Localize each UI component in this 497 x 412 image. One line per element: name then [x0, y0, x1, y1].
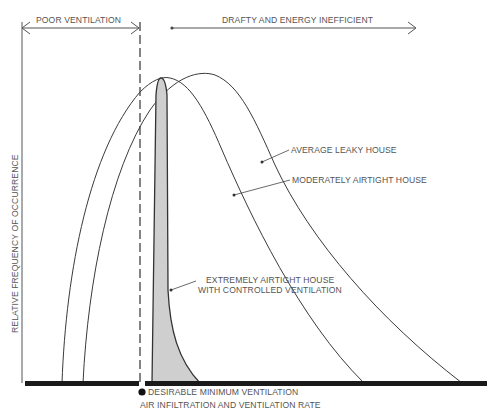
ventilation-diagram: POOR VENTILATION DRAFTY AND ENERGY INEFF… — [0, 0, 497, 412]
desirable-minimum-ventilation-label: DESIRABLE MINIMUM VENTILATION — [148, 387, 298, 397]
baseline-left-segment — [25, 381, 139, 386]
extremely-airtight-house-leader — [170, 281, 197, 292]
extremely-airtight-house-label-line1: EXTREMELY AIRTIGHT HOUSE — [206, 275, 334, 285]
extremely-airtight-house-label-line2: WITH CONTROLLED VENTILATION — [198, 285, 342, 295]
desirable-minimum-marker — [138, 388, 145, 395]
moderately-airtight-house-leader — [233, 180, 291, 197]
average-leaky-house-leader — [261, 150, 290, 164]
moderately-airtight-house-label: MODERATELY AIRTIGHT HOUSE — [292, 175, 427, 185]
baseline-right-segment — [145, 381, 487, 386]
average-leaky-house-label: AVERAGE LEAKY HOUSE — [291, 145, 397, 155]
y-axis-label: RELATIVE FREQUENCY OF OCCURRENCE — [10, 154, 20, 333]
extremely-airtight-house-curve — [152, 78, 200, 383]
moderately-airtight-house-curve — [62, 78, 364, 383]
x-axis-label: AIR INFILTRATION AND VENTILATION RATE — [140, 400, 321, 410]
poor-ventilation-label: POOR VENTILATION — [36, 15, 121, 25]
drafty-label: DRAFTY AND ENERGY INEFFICIENT — [222, 15, 374, 25]
